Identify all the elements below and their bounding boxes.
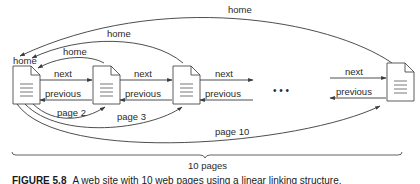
linear-linking-diagram: home home home home next previous next p… xyxy=(0,0,420,184)
home-label-page2: home xyxy=(63,46,87,57)
home-label-page3: home xyxy=(107,28,131,39)
caption-text: A web site with 10 web pages using a lin… xyxy=(72,175,341,184)
page-1-document-icon xyxy=(13,66,40,104)
page-10-document-icon xyxy=(387,63,414,101)
page-3-document-icon xyxy=(173,66,200,104)
page2-label: page 2 xyxy=(57,107,86,118)
next-label-2: next xyxy=(134,68,152,79)
pages-brace xyxy=(12,152,402,158)
next-label-1: next xyxy=(54,68,72,79)
brace-label: 10 pages xyxy=(188,160,227,171)
figure-caption: FIGURE 5.8A web site with 10 web pages u… xyxy=(12,175,420,184)
next-label-3: next xyxy=(215,68,233,79)
previous-label-10: previous xyxy=(336,86,372,97)
home-link-page3 xyxy=(32,41,183,63)
home-page-label: home xyxy=(13,55,37,66)
page-2-document-icon xyxy=(93,66,120,104)
home-label-page10: home xyxy=(228,4,252,15)
home-links xyxy=(20,17,392,68)
page10-label: page 10 xyxy=(215,126,249,137)
ellipsis: • • • xyxy=(273,85,290,96)
previous-label-3: previous xyxy=(205,88,241,99)
page3-label: page 3 xyxy=(117,111,146,122)
figure-number: FIGURE 5.8 xyxy=(12,175,66,184)
next-label-10: next xyxy=(345,66,363,77)
previous-label-2: previous xyxy=(125,88,161,99)
previous-label-1: previous xyxy=(45,88,81,99)
